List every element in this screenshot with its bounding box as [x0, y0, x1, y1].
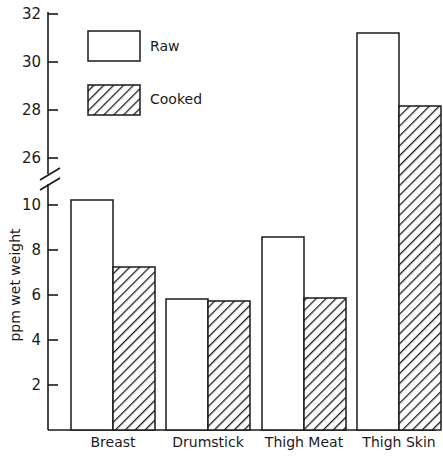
bar-raw-drumstick	[166, 299, 208, 430]
bar-cooked-thigh-skin	[399, 106, 441, 430]
y-tick-label-2: 2	[31, 376, 41, 394]
legend-label-raw: Raw	[150, 38, 179, 54]
x-category-label-drumstick: Drumstick	[172, 434, 244, 450]
chart-canvas: 32 30 28 26 10 8 6 4 2 ppm wet weight Br…	[0, 0, 443, 458]
y-tick-label-28: 28	[22, 101, 41, 119]
legend-swatch-cooked	[88, 85, 140, 115]
y-tick-label-32: 32	[22, 5, 41, 23]
bar-cooked-drumstick	[208, 301, 250, 430]
y-tick-group-upper	[48, 14, 58, 158]
y-tick-group-lower	[48, 205, 58, 385]
legend: Raw Cooked	[88, 31, 202, 115]
bar-raw-thigh-meat	[262, 237, 304, 430]
y-tick-label-26: 26	[22, 149, 41, 167]
y-tick-label-8: 8	[31, 241, 41, 259]
y-tick-label-6: 6	[31, 286, 41, 304]
bar-raw-thigh-skin	[357, 33, 399, 430]
legend-label-cooked: Cooked	[150, 91, 202, 107]
y-tick-label-30: 30	[22, 53, 41, 71]
y-tick-label-4: 4	[31, 331, 41, 349]
axis-break-slash-lower	[40, 168, 60, 180]
legend-swatch-raw	[88, 31, 140, 61]
bar-raw-breast	[71, 200, 113, 430]
x-category-label-thigh-skin: Thigh Skin	[361, 434, 435, 450]
y-axis-title: ppm wet weight	[7, 228, 23, 342]
x-category-label-breast: Breast	[90, 434, 136, 450]
x-category-label-thigh-meat: Thigh Meat	[264, 434, 344, 450]
bar-cooked-breast	[113, 267, 155, 430]
axis-break-slash-upper	[40, 178, 60, 190]
bar-cooked-thigh-meat	[304, 298, 346, 430]
bar-chart: 32 30 28 26 10 8 6 4 2 ppm wet weight Br…	[0, 0, 443, 458]
y-tick-label-10: 10	[22, 196, 41, 214]
